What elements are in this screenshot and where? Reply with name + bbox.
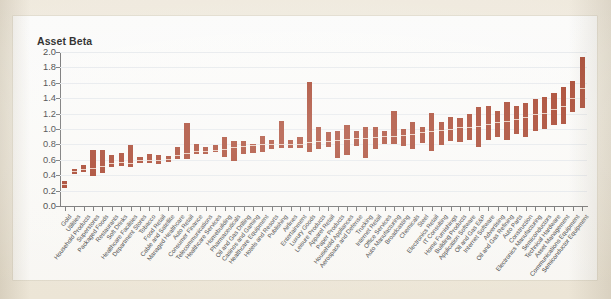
range-bar: [184, 123, 189, 159]
median-marker: [580, 88, 585, 89]
x-axis-tick-mark: [347, 207, 348, 211]
range-bar: [542, 97, 547, 129]
range-bar: [166, 156, 171, 162]
median-marker: [373, 137, 378, 138]
x-axis-tick-mark: [309, 207, 310, 211]
x-axis-tick-mark: [432, 207, 433, 211]
x-axis-tick-mark: [413, 207, 414, 211]
range-bar: [137, 157, 142, 162]
range-bar: [72, 169, 77, 174]
x-axis-tick-mark: [140, 207, 141, 211]
x-axis-tick-mark: [319, 207, 320, 211]
median-marker: [523, 117, 528, 118]
median-marker: [354, 138, 359, 139]
median-marker: [166, 159, 171, 160]
median-marker: [279, 144, 284, 145]
x-axis-tick-mark: [422, 207, 423, 211]
x-axis-tick-mark: [74, 207, 75, 211]
range-bar: [119, 153, 124, 166]
median-marker: [119, 162, 124, 163]
median-marker: [100, 166, 105, 167]
x-axis-tick-mark: [102, 207, 103, 211]
gridline: [60, 83, 587, 84]
median-marker: [420, 132, 425, 133]
median-marker: [297, 144, 302, 145]
x-axis-tick-mark: [582, 207, 583, 211]
x-axis-tick-mark: [545, 207, 546, 211]
range-bar: [344, 125, 349, 155]
range-bar: [504, 102, 509, 140]
x-axis-tick-mark: [535, 207, 536, 211]
x-axis-tick-mark: [356, 207, 357, 211]
median-marker: [260, 144, 265, 145]
median-marker: [194, 151, 199, 152]
x-axis-tick-mark: [300, 207, 301, 211]
x-axis-tick-mark: [526, 207, 527, 211]
range-bar: [551, 93, 556, 125]
x-axis-tick-mark: [460, 207, 461, 211]
x-axis-tick-mark: [488, 207, 489, 211]
range-bar: [231, 141, 236, 161]
x-axis-tick-mark: [328, 207, 329, 211]
x-axis-tick-mark: [121, 207, 122, 211]
range-bar: [467, 114, 472, 140]
median-marker: [137, 160, 142, 161]
range-bar: [391, 111, 396, 144]
median-marker: [62, 184, 67, 185]
y-axis-tick-label: 0.6: [43, 155, 56, 165]
median-marker: [382, 136, 387, 137]
range-bar: [260, 136, 265, 152]
median-marker: [551, 109, 556, 110]
range-bar: [354, 131, 359, 146]
range-bar: [81, 165, 86, 172]
median-marker: [514, 119, 519, 120]
median-marker: [363, 138, 368, 139]
range-bar: [250, 144, 255, 153]
range-bar: [533, 99, 538, 131]
y-axis-tick-mark: [56, 67, 60, 68]
range-bar: [128, 145, 133, 167]
range-bar: [523, 103, 528, 137]
median-marker: [81, 169, 86, 170]
y-axis-tick-label: 1.4: [43, 93, 56, 103]
x-axis-tick-mark: [272, 207, 273, 211]
chart-figure-panel: Asset Beta 0.00.20.40.60.81.01.21.41.61.…: [13, 16, 597, 280]
y-axis-tick-mark: [56, 83, 60, 84]
range-bar: [382, 131, 387, 145]
median-marker: [109, 163, 114, 164]
median-marker: [495, 122, 500, 123]
median-marker: [391, 136, 396, 137]
x-axis-tick-mark: [441, 207, 442, 211]
median-marker: [344, 139, 349, 140]
median-marker: [307, 142, 312, 143]
y-axis-tick-mark: [56, 114, 60, 115]
gridline: [60, 52, 587, 53]
range-bar: [90, 150, 95, 176]
median-marker: [250, 145, 255, 146]
median-marker: [90, 168, 95, 169]
x-axis-tick-mark: [291, 207, 292, 211]
median-marker: [335, 140, 340, 141]
range-bar: [495, 111, 500, 136]
median-marker: [448, 129, 453, 130]
y-axis-tick-label: 1.2: [43, 109, 56, 119]
median-marker: [213, 150, 218, 151]
range-bar: [514, 106, 519, 134]
range-bar: [147, 154, 152, 163]
x-axis-tick-mark: [451, 207, 452, 211]
range-bar: [203, 147, 208, 153]
x-axis-tick-mark: [215, 207, 216, 211]
x-axis-tick-mark: [187, 207, 188, 211]
median-marker: [175, 155, 180, 156]
y-axis-tick-label: 2.0: [43, 47, 56, 57]
gridline: [60, 98, 587, 99]
x-axis-tick-mark: [394, 207, 395, 211]
median-marker: [147, 160, 152, 161]
median-marker: [241, 146, 246, 147]
range-bar: [279, 121, 284, 149]
range-bar: [570, 81, 575, 112]
median-marker: [486, 124, 491, 125]
range-bar: [410, 122, 415, 149]
range-bar: [222, 137, 227, 158]
range-bar: [448, 117, 453, 141]
